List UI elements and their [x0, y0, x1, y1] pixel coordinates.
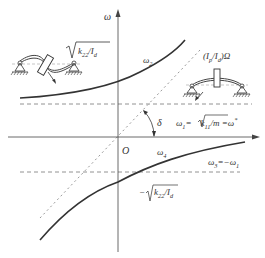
right-rotor-figure — [183, 69, 250, 101]
left-rotor-figure — [11, 55, 82, 84]
omega2-label: ω2 — [143, 56, 153, 67]
origin-label: O — [122, 146, 129, 156]
y-axis-arrow-icon — [116, 9, 121, 17]
omega1-label: ω1= k11/m =ω* — [176, 117, 237, 130]
top-sqrt-label: k22/Id — [78, 47, 97, 58]
delta-arrow-bottom-icon — [152, 131, 156, 137]
delta-arrow-top-icon — [143, 110, 148, 115]
omega4-label: ω4 — [157, 148, 167, 159]
y-axis-label: ω — [104, 12, 111, 22]
omega3-label: ω3=−ω1 — [208, 158, 239, 169]
asymptote-label: (Ip/Id)Ω — [203, 52, 230, 63]
delta-label: δ — [157, 118, 162, 128]
bottom-sqrt-label: − k22/Id — [139, 188, 173, 199]
diagonal-asymptote — [40, 50, 200, 218]
x-axis-arrow-icon — [252, 135, 260, 140]
